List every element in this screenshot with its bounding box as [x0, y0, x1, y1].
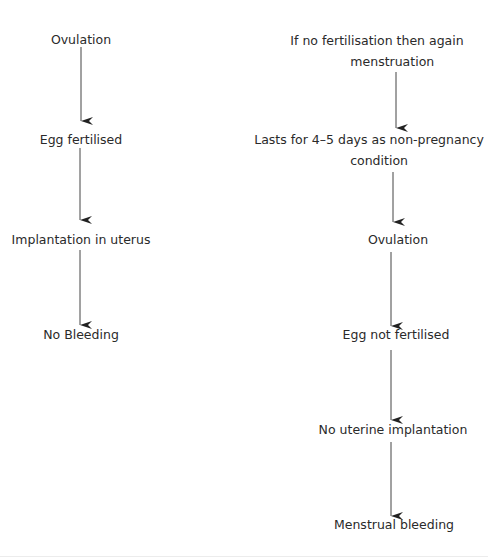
node-label: Ovulation: [51, 29, 111, 50]
node-label-line2: condition: [254, 150, 484, 171]
right-node-if-no-fertilisation: If no fertilisation then again menstruat…: [290, 30, 463, 72]
arrows-layer: [0, 0, 488, 560]
node-label: No Bleeding: [43, 324, 119, 345]
node-label-line1: Lasts for 4–5 days as non-pregnancy: [254, 129, 484, 150]
left-node-egg-fertilised: Egg fertilised: [40, 129, 122, 150]
node-label: Egg fertilised: [40, 129, 122, 150]
node-label: No uterine implantation: [319, 419, 468, 440]
node-label: Implantation in uterus: [12, 229, 151, 250]
left-node-ovulation: Ovulation: [51, 29, 111, 50]
right-node-ovulation: Ovulation: [368, 229, 428, 250]
node-label: Ovulation: [368, 229, 428, 250]
node-label-line1: If no fertilisation then again: [290, 30, 463, 51]
node-label-line2: menstruation: [290, 51, 463, 72]
right-node-menstrual-bleeding: Menstrual bleeding: [334, 514, 454, 535]
left-node-no-bleeding: No Bleeding: [43, 324, 119, 345]
bottom-divider: [0, 556, 488, 557]
left-node-implantation-in-uterus: Implantation in uterus: [12, 229, 151, 250]
node-label: Menstrual bleeding: [334, 514, 454, 535]
right-node-egg-not-fertilised: Egg not fertilised: [343, 324, 450, 345]
right-node-lasts-4-5-days: Lasts for 4–5 days as non-pregnancy cond…: [254, 129, 484, 171]
right-node-no-uterine-implantation: No uterine implantation: [319, 419, 468, 440]
node-label: Egg not fertilised: [343, 324, 450, 345]
